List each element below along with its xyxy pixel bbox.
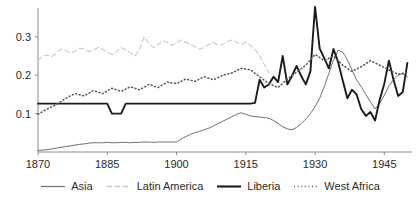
line-solid-thin-gray-icon xyxy=(40,182,66,191)
chart-legend: AsiaLatin AmericaLiberiaWest Africa xyxy=(0,177,420,195)
series-line-latin-america xyxy=(38,37,269,73)
legend-label: Latin America xyxy=(137,180,204,192)
chart-axes xyxy=(35,8,412,155)
x-tick-label: 1885 xyxy=(82,159,132,170)
y-tick-label: 0.1 xyxy=(0,109,31,120)
series-line-liberia xyxy=(38,7,407,121)
legend-item-liberia[interactable]: Liberia xyxy=(216,180,280,192)
x-tick-label: 1915 xyxy=(221,159,271,170)
x-tick-label: 1900 xyxy=(152,159,202,170)
y-tick-label: 0.3 xyxy=(0,32,31,43)
legend-item-latin-america[interactable]: Latin America xyxy=(106,180,204,192)
legend-item-west-africa[interactable]: West Africa xyxy=(293,180,379,192)
chart-series-layer xyxy=(38,7,407,151)
x-tick-label: 1870 xyxy=(13,159,63,170)
y-tick-label: 0.2 xyxy=(0,70,31,81)
legend-item-asia[interactable]: Asia xyxy=(40,180,92,192)
line-dotted-icon xyxy=(293,182,319,191)
x-tick-label: 1930 xyxy=(290,159,340,170)
x-tick-label: 1945 xyxy=(359,159,409,170)
line-solid-thick-black-icon xyxy=(216,182,242,191)
legend-label: West Africa xyxy=(324,180,379,192)
series-line-asia xyxy=(38,50,407,150)
legend-label: Liberia xyxy=(247,180,280,192)
line-chart-plot xyxy=(0,0,420,200)
line-dashed-light-icon xyxy=(106,182,132,191)
chart-figure: 0.10.20.3 187018851900191519301945 AsiaL… xyxy=(0,0,420,200)
series-line-west-africa xyxy=(38,54,407,114)
legend-label: Asia xyxy=(71,180,92,192)
